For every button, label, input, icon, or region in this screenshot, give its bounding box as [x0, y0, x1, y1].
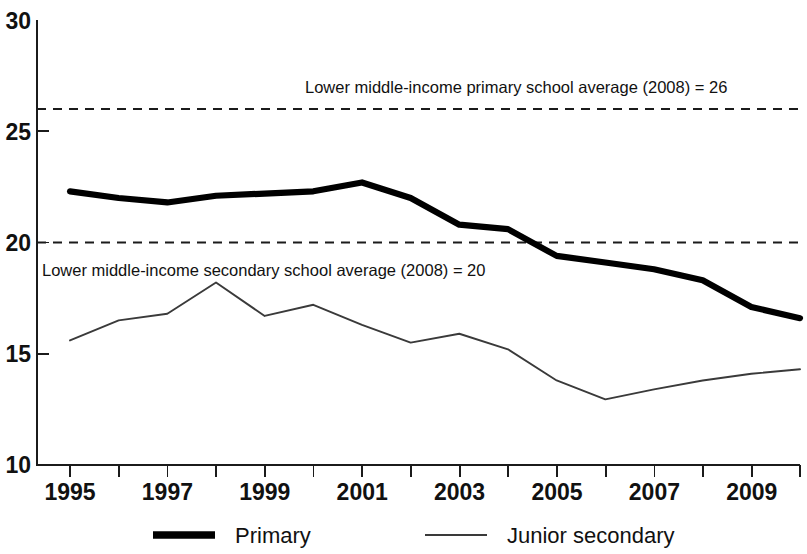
legend-label-primary: Primary: [235, 523, 311, 548]
reference-lines: [37, 109, 800, 243]
legend-label-junior-secondary: Junior secondary: [507, 523, 675, 548]
x-tick-label-1997: 1997: [142, 479, 193, 505]
y-tick-label-25: 25: [5, 119, 31, 145]
annotation-primary-average: Lower middle-income primary school avera…: [305, 78, 727, 96]
series-line-primary: [70, 182, 800, 318]
x-tick-label-2007: 2007: [629, 479, 680, 505]
chart-legend: Primary Junior secondary: [153, 523, 675, 548]
x-tick-label-1999: 1999: [239, 479, 290, 505]
x-tick-label-2009: 2009: [726, 479, 777, 505]
line-chart: 30 25 20 15 10 1995: [0, 0, 807, 554]
x-tick-label-2005: 2005: [531, 479, 582, 505]
data-series-group: [70, 182, 800, 399]
y-tick-label-30: 30: [5, 8, 31, 34]
y-tick-label-15: 15: [5, 341, 31, 367]
series-line-junior-secondary: [70, 283, 800, 400]
y-tick-label-10: 10: [5, 452, 31, 478]
y-axis-labels: 30 25 20 15 10: [5, 8, 31, 478]
x-axis-ticks: [70, 465, 800, 477]
x-tick-label-2001: 2001: [337, 479, 388, 505]
annotation-secondary-average: Lower middle-income secondary school ave…: [42, 261, 485, 279]
x-axis-labels: 1995 1997 1999 2001 2003 2005 2007 2009: [44, 479, 777, 505]
y-tick-label-20: 20: [5, 230, 31, 256]
chart-container: 30 25 20 15 10 1995: [0, 0, 807, 554]
x-tick-label-1995: 1995: [44, 479, 95, 505]
x-tick-label-2003: 2003: [434, 479, 485, 505]
chart-annotations: Lower middle-income primary school avera…: [42, 78, 727, 279]
